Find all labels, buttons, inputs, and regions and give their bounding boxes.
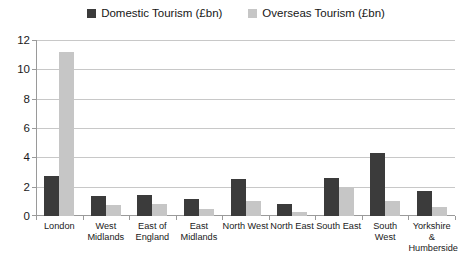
- x-axis-label: London: [36, 221, 83, 232]
- x-tickmark: [36, 216, 37, 220]
- bar-domestic: [91, 196, 106, 216]
- legend-label-overseas: Overseas Tourism (£bn): [262, 8, 385, 20]
- x-tickmark: [362, 216, 363, 220]
- x-axis-label: North East: [269, 221, 316, 232]
- x-axis-label: South West: [362, 221, 409, 243]
- x-axis-label: East of England: [129, 221, 176, 243]
- legend-item-overseas: Overseas Tourism (£bn): [248, 8, 385, 20]
- bar-overseas: [199, 209, 214, 216]
- bars-layer: [36, 40, 455, 216]
- bar-overseas: [106, 205, 121, 216]
- x-tickmark: [83, 216, 84, 220]
- legend-label-domestic: Domestic Tourism (£bn): [101, 8, 222, 20]
- x-axis-tickmarks: [36, 216, 455, 220]
- x-tickmark: [315, 216, 316, 220]
- bar-overseas: [59, 52, 74, 216]
- y-tick-label-4: 4: [24, 151, 30, 163]
- x-axis-label: West Midlands: [83, 221, 130, 243]
- y-tick-label-0: 0: [24, 210, 30, 222]
- x-tickmark: [129, 216, 130, 220]
- plot-area: [36, 40, 455, 216]
- x-tickmark: [408, 216, 409, 220]
- bar-domestic: [184, 199, 199, 216]
- bar-overseas: [432, 207, 447, 216]
- y-tick-label-6: 6: [24, 122, 30, 134]
- bar-domestic: [324, 178, 339, 216]
- bar-domestic: [417, 191, 432, 216]
- bar-overseas: [246, 201, 261, 216]
- x-tickmark: [269, 216, 270, 220]
- x-tickmark: [222, 216, 223, 220]
- bar-overseas: [339, 187, 354, 216]
- bar-overseas: [152, 204, 167, 216]
- x-tickmark: [176, 216, 177, 220]
- bar-domestic: [370, 153, 385, 216]
- y-tick-label-10: 10: [17, 63, 30, 75]
- chart-legend: Domestic Tourism (£bn) Overseas Tourism …: [0, 8, 472, 20]
- bar-domestic: [44, 176, 59, 216]
- x-axis-label: South East: [315, 221, 362, 232]
- x-axis-label: East Midlands: [176, 221, 223, 243]
- legend-item-domestic: Domestic Tourism (£bn): [87, 8, 222, 20]
- y-tick-label-8: 8: [24, 93, 30, 105]
- bar-domestic: [231, 179, 246, 216]
- bar-chart: Domestic Tourism (£bn) Overseas Tourism …: [0, 0, 472, 259]
- bar-domestic: [137, 195, 152, 216]
- x-axis-label: Yorkshire & Humberside: [408, 221, 455, 254]
- bar-domestic: [277, 204, 292, 216]
- x-axis-labels: LondonWest MidlandsEast of EnglandEast M…: [36, 221, 455, 257]
- legend-square-icon: [248, 9, 257, 18]
- y-tick-label-2: 2: [24, 181, 30, 193]
- x-tickmark: [455, 216, 456, 220]
- y-tick-label-12: 12: [17, 34, 30, 46]
- bar-overseas: [385, 201, 400, 216]
- y-axis-labels: 12 10 8 6 4 2 0: [0, 40, 30, 216]
- legend-square-icon: [87, 9, 96, 18]
- x-axis-label: North West: [222, 221, 269, 232]
